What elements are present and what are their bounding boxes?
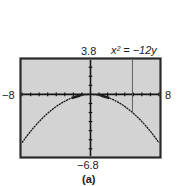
xmin-label: −8 xyxy=(2,89,15,101)
graph-figure: 3.8 x² = −12y −8 8 −6.8 (a) xyxy=(0,0,191,186)
equation-label: x² = −12y xyxy=(111,44,157,56)
ymax-label: 3.8 xyxy=(81,45,96,57)
ymin-label: −6.8 xyxy=(77,159,99,171)
xmax-label: 8 xyxy=(165,89,171,101)
figure-caption: (a) xyxy=(82,173,95,185)
